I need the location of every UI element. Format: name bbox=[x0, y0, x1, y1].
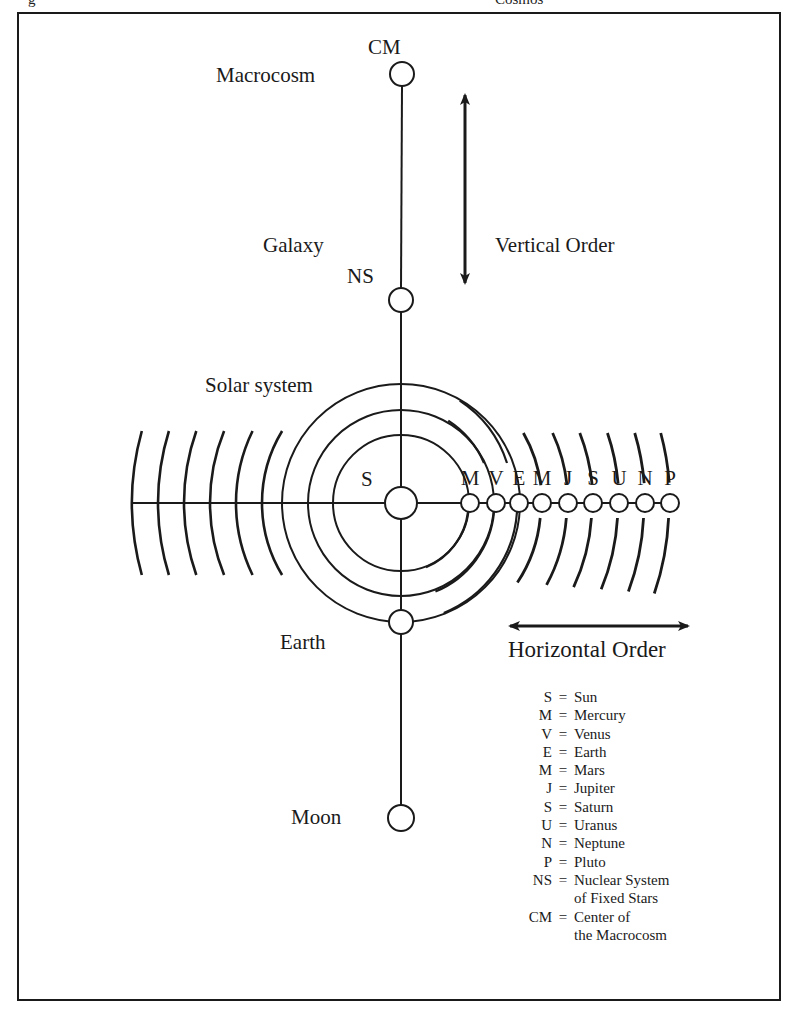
node-ns bbox=[389, 288, 413, 312]
node-moon bbox=[388, 805, 414, 831]
legend-row: X=the Macrocosm bbox=[520, 926, 669, 944]
legend-row: S=Saturn bbox=[520, 798, 669, 816]
planet-letter-pluto: P bbox=[658, 468, 682, 489]
orbit-arc-lower-mercury bbox=[426, 512, 468, 567]
legend-row: J=Jupiter bbox=[520, 779, 669, 797]
planet-letter-uranus: U bbox=[607, 468, 631, 489]
legend-definition: Sun bbox=[574, 688, 597, 706]
orbit-arc-lower-jupiter bbox=[547, 518, 567, 585]
solar-system-label: Solar system bbox=[205, 375, 313, 396]
planet-letter-saturn: S bbox=[581, 468, 605, 489]
vertical-axis-line bbox=[401, 86, 402, 288]
macrocosm-label: Macrocosm bbox=[216, 65, 315, 86]
legend-definition: the Macrocosm bbox=[574, 926, 667, 944]
legend-definition: Center of bbox=[574, 908, 630, 926]
legend-equals: = bbox=[552, 816, 574, 834]
planet-node-neptune bbox=[636, 494, 654, 512]
legend-equals: = bbox=[552, 706, 574, 724]
legend-equals: = bbox=[552, 798, 574, 816]
legend-definition: Pluto bbox=[574, 853, 606, 871]
cosmos-diagram bbox=[0, 0, 796, 1017]
legend-equals: = bbox=[552, 853, 574, 871]
legend-equals: = bbox=[552, 834, 574, 852]
legend-equals: = bbox=[552, 779, 574, 797]
orbit-arc-upper-earth bbox=[460, 401, 507, 463]
node-cm bbox=[390, 62, 414, 86]
orbit-arc-lower-neptune bbox=[628, 518, 643, 591]
planet-letter-venus: V bbox=[484, 468, 508, 489]
legend-abbr: E bbox=[520, 743, 552, 761]
legend-equals: = bbox=[552, 688, 574, 706]
ns-label: NS bbox=[347, 266, 374, 287]
planet-node-uranus bbox=[610, 494, 628, 512]
orbit-arc-lower-saturn bbox=[574, 518, 592, 587]
legend-row: V=Venus bbox=[520, 725, 669, 743]
legend-row: N=Neptune bbox=[520, 834, 669, 852]
legend-definition: Earth bbox=[574, 743, 606, 761]
legend-definition: of Fixed Stars bbox=[574, 889, 658, 907]
orbit-arc-lower-earth bbox=[444, 512, 517, 613]
planet-letter-mars: M bbox=[530, 468, 554, 489]
legend-equals: = bbox=[552, 871, 574, 889]
legend-abbr: P bbox=[520, 853, 552, 871]
galaxy-label: Galaxy bbox=[263, 235, 324, 256]
legend-definition: Uranus bbox=[574, 816, 617, 834]
legend-row: CM=Center of bbox=[520, 908, 669, 926]
legend-abbr: U bbox=[520, 816, 552, 834]
legend-abbr: S bbox=[520, 798, 552, 816]
legend-abbr: CM bbox=[520, 908, 552, 926]
legend-equals: = bbox=[552, 743, 574, 761]
planet-letter-jupiter: J bbox=[556, 468, 580, 489]
planet-node-mercury bbox=[461, 494, 479, 512]
legend-definition: Mercury bbox=[574, 706, 626, 724]
legend-row: M=Mars bbox=[520, 761, 669, 779]
legend-row: NS=Nuclear System bbox=[520, 871, 669, 889]
legend-row: E=Earth bbox=[520, 743, 669, 761]
orbit-arc-lower-mars bbox=[517, 518, 540, 583]
legend-abbr: V bbox=[520, 725, 552, 743]
legend-equals: = bbox=[552, 908, 574, 926]
legend-row: X=of Fixed Stars bbox=[520, 889, 669, 907]
legend-abbr: N bbox=[520, 834, 552, 852]
planet-letter-earth: E bbox=[507, 468, 531, 489]
inner-orbit-ref bbox=[401, 503, 494, 596]
legend-abbr: S bbox=[520, 688, 552, 706]
horizontal-order-label: Horizontal Order bbox=[508, 638, 666, 661]
legend-definition: Saturn bbox=[574, 798, 613, 816]
legend: S=SunM=MercuryV=VenusE=EarthM=MarsJ=Jupi… bbox=[520, 688, 669, 944]
planet-letter-mercury: M bbox=[458, 468, 482, 489]
moon-label: Moon bbox=[291, 807, 341, 828]
legend-abbr: J bbox=[520, 779, 552, 797]
legend-definition: Neptune bbox=[574, 834, 625, 852]
legend-definition: Jupiter bbox=[574, 779, 615, 797]
node-s bbox=[385, 487, 417, 519]
legend-definition: Nuclear System bbox=[574, 871, 669, 889]
legend-abbr: NS bbox=[520, 871, 552, 889]
planet-node-saturn bbox=[584, 494, 602, 512]
planet-letter-neptune: N bbox=[633, 468, 657, 489]
legend-definition: Mars bbox=[574, 761, 605, 779]
legend-row: M=Mercury bbox=[520, 706, 669, 724]
legend-row: U=Uranus bbox=[520, 816, 669, 834]
earth-label: Earth bbox=[280, 632, 325, 653]
node-earth bbox=[389, 610, 413, 634]
legend-row: S=Sun bbox=[520, 688, 669, 706]
planet-node-mars bbox=[533, 494, 551, 512]
cm-label: CM bbox=[368, 37, 401, 58]
legend-equals: = bbox=[552, 725, 574, 743]
planet-node-jupiter bbox=[559, 494, 577, 512]
legend-definition: Venus bbox=[574, 725, 611, 743]
planet-node-pluto bbox=[661, 494, 679, 512]
legend-equals: = bbox=[552, 761, 574, 779]
legend-abbr: M bbox=[520, 706, 552, 724]
legend-abbr: M bbox=[520, 761, 552, 779]
vertical-order-label: Vertical Order bbox=[495, 235, 615, 256]
planet-node-earth bbox=[510, 494, 528, 512]
legend-row: P=Pluto bbox=[520, 853, 669, 871]
orbit-arc-lower-pluto bbox=[654, 518, 668, 594]
orbit-arc-lower-uranus bbox=[601, 518, 617, 589]
planet-node-venus bbox=[487, 494, 505, 512]
sun-label: S bbox=[361, 469, 373, 490]
